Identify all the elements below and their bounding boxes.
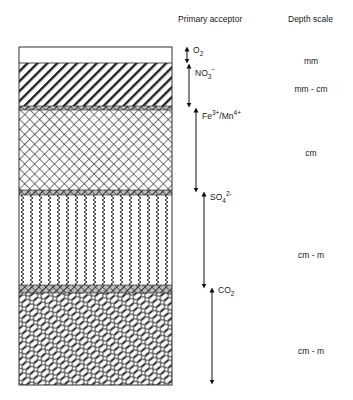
depth-scale-mm-cm: mm - cm xyxy=(281,84,341,94)
layer-metal xyxy=(19,110,172,190)
acceptor-arrows xyxy=(187,49,212,382)
layer-oxic xyxy=(19,47,172,63)
layer-transition-2 xyxy=(19,190,172,195)
layer-transition-1 xyxy=(19,106,172,110)
depth-scale-cm-m-1: cm - m xyxy=(281,250,341,260)
layer-nitrate xyxy=(19,63,172,106)
layer-transition-3 xyxy=(19,285,172,293)
acceptor-label-fe-mn: Fe3+/Mn4+ xyxy=(202,108,241,121)
depth-scale-cm: cm xyxy=(281,148,341,158)
acceptor-label-no3: NO3− xyxy=(195,65,215,82)
acceptor-label-so4: SO42- xyxy=(210,189,232,206)
depth-scale-mm: mm xyxy=(281,56,341,66)
layer-methane xyxy=(19,293,172,385)
layer-sulfate xyxy=(19,195,172,285)
sediment-layers xyxy=(19,47,172,385)
acceptor-label-co2: CO2 xyxy=(218,285,234,299)
acceptor-label-o2: O2 xyxy=(193,45,203,59)
depth-scale-cm-m-2: cm - m xyxy=(281,346,341,356)
